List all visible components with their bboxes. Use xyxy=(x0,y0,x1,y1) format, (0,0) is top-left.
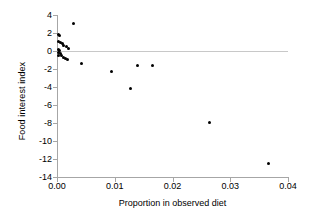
data-point xyxy=(136,64,139,67)
data-point xyxy=(66,58,69,61)
y-tick-mark xyxy=(53,141,57,142)
x-tick-label: 0.01 xyxy=(93,182,137,191)
y-tick-label: -2 xyxy=(26,65,52,73)
data-point xyxy=(72,22,75,25)
data-point xyxy=(80,62,83,65)
data-point xyxy=(129,87,132,90)
x-tick-label: 0.00 xyxy=(35,182,79,191)
y-tick-label: -8 xyxy=(26,119,52,127)
data-point xyxy=(110,70,113,73)
y-tick-label: -14 xyxy=(26,173,52,181)
scatter-chart: Food interest index 420-2-4-6-8-10-12-14… xyxy=(0,0,311,220)
x-axis-label: Proportion in observed diet xyxy=(57,198,288,208)
y-tick-mark xyxy=(53,123,57,124)
y-tick-mark xyxy=(53,15,57,16)
y-tick-mark xyxy=(53,159,57,160)
y-tick-label: 2 xyxy=(26,29,52,37)
x-tick-label: 0.04 xyxy=(266,182,310,191)
data-point xyxy=(267,162,270,165)
y-tick-mark xyxy=(53,105,57,106)
x-tick-label: 0.03 xyxy=(208,182,252,191)
data-point xyxy=(208,121,211,124)
y-tick-label: 0 xyxy=(26,47,52,55)
y-tick-label: 4 xyxy=(26,11,52,19)
y-tick-label: -10 xyxy=(26,137,52,145)
y-tick-label: -4 xyxy=(26,83,52,91)
y-tick-mark xyxy=(53,69,57,70)
data-point xyxy=(151,64,154,67)
zero-line xyxy=(57,51,288,52)
y-tick-label: -12 xyxy=(26,155,52,163)
data-point xyxy=(67,47,70,50)
x-tick-label: 0.02 xyxy=(151,182,195,191)
data-point xyxy=(58,34,61,37)
y-tick-mark xyxy=(53,87,57,88)
y-tick-label: -6 xyxy=(26,101,52,109)
